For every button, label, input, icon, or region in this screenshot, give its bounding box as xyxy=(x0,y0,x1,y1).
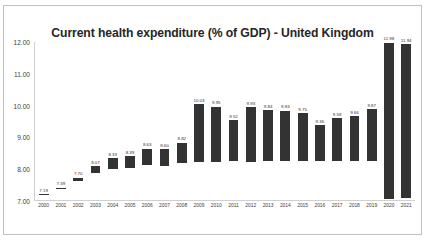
x-axis-tick: 2019 xyxy=(366,204,377,209)
bar-holder: 7.39 xyxy=(52,188,69,200)
bar-group: 9.872019 xyxy=(363,42,380,200)
bar[interactable] xyxy=(56,188,66,189)
bar-holder: 9.58 xyxy=(329,118,346,200)
bar[interactable] xyxy=(142,149,152,166)
bar[interactable] xyxy=(315,125,325,160)
bar-holder: 10.03 xyxy=(190,104,207,200)
bar-group: 9.582017 xyxy=(329,42,346,200)
bar[interactable] xyxy=(350,116,360,161)
plot-area: 12.0011.0010.009.008.007.00 7.1920007.39… xyxy=(34,42,415,201)
bar[interactable] xyxy=(401,44,411,198)
bar-holder: 8.07 xyxy=(87,166,104,200)
x-axis-tick: 2014 xyxy=(280,204,291,209)
bar[interactable] xyxy=(194,104,204,162)
bar[interactable] xyxy=(280,111,290,162)
bar[interactable] xyxy=(263,110,273,161)
x-axis-tick: 2006 xyxy=(142,204,153,209)
bar-value-label: 9.75 xyxy=(298,108,307,112)
bar-group: 10.032009 xyxy=(190,42,207,200)
bar-holder: 8.39 xyxy=(121,156,138,200)
bar-holder: 9.93 xyxy=(242,107,259,200)
bar-holder: 9.66 xyxy=(346,116,363,200)
x-axis-tick: 2000 xyxy=(38,204,49,209)
bar[interactable] xyxy=(160,149,170,165)
x-axis-tick: 2018 xyxy=(349,204,360,209)
bar-value-label: 8.07 xyxy=(91,161,100,165)
bar-group: 9.522011 xyxy=(225,42,242,200)
x-axis-tick: 2010 xyxy=(211,204,222,209)
y-axis-tick: 8.00 xyxy=(17,166,30,173)
bar[interactable] xyxy=(73,178,83,181)
bar[interactable] xyxy=(177,143,187,164)
bar-group: 9.662018 xyxy=(346,42,363,200)
bar-group: 9.832014 xyxy=(277,42,294,200)
bar[interactable] xyxy=(367,109,377,161)
bar-value-label: 9.36 xyxy=(316,120,325,124)
bar-value-label: 9.52 xyxy=(229,115,238,119)
bar-group: 8.602007 xyxy=(156,42,173,200)
bar[interactable] xyxy=(384,43,394,200)
bar[interactable] xyxy=(108,158,118,169)
bar[interactable] xyxy=(332,118,342,160)
x-axis-tick: 2015 xyxy=(297,204,308,209)
bar-holder: 7.19 xyxy=(35,194,52,200)
bar[interactable] xyxy=(246,107,256,161)
bar[interactable] xyxy=(125,156,135,168)
bar-group: 7.392001 xyxy=(52,42,69,200)
bar[interactable] xyxy=(229,120,239,160)
bar-group: 8.332004 xyxy=(104,42,121,200)
bar-value-label: 9.87 xyxy=(367,104,376,108)
bar-group: 11.982020 xyxy=(380,42,397,200)
bar-value-label: 11.98 xyxy=(384,37,395,41)
x-axis-tick: 2003 xyxy=(90,204,101,209)
y-axis-tick: 9.00 xyxy=(17,134,30,141)
bar-value-label: 9.95 xyxy=(212,101,221,105)
bar[interactable] xyxy=(211,107,221,162)
bar-value-label: 7.70 xyxy=(74,172,83,176)
bar-value-label: 9.66 xyxy=(350,111,359,115)
x-axis-tick: 2013 xyxy=(263,204,274,209)
x-axis-tick: 2005 xyxy=(125,204,136,209)
bar-holder: 11.94 xyxy=(398,44,415,200)
bar-value-label: 8.39 xyxy=(126,151,135,155)
bar-holder: 8.63 xyxy=(139,149,156,201)
bar-holder: 8.60 xyxy=(156,149,173,200)
bar-holder: 9.52 xyxy=(225,120,242,200)
bar-value-label: 7.39 xyxy=(57,182,66,186)
bar-group: 9.362016 xyxy=(311,42,328,200)
bar-holder: 9.83 xyxy=(277,111,294,200)
y-axis-tick: 11.00 xyxy=(14,70,30,77)
bar-value-label: 8.60 xyxy=(160,144,169,148)
bar-group: 9.952010 xyxy=(208,42,225,200)
bar-value-label: 9.83 xyxy=(281,105,290,109)
y-axis-tick: 10.00 xyxy=(13,102,30,109)
bar-group: 9.842013 xyxy=(259,42,276,200)
bar-holder: 11.98 xyxy=(380,43,397,200)
bar-group: 8.632006 xyxy=(139,42,156,200)
bar-group: 9.752015 xyxy=(294,42,311,200)
x-axis-line xyxy=(34,200,415,201)
bar-holder: 9.75 xyxy=(294,113,311,200)
x-axis-tick: 2011 xyxy=(228,204,239,209)
bar-holder: 9.95 xyxy=(208,107,225,200)
y-axis-tick: 7.00 xyxy=(17,198,30,205)
bar[interactable] xyxy=(91,166,101,173)
bar-value-label: 10.03 xyxy=(194,99,205,103)
x-axis-tick: 2016 xyxy=(314,204,325,209)
bar-holder: 9.84 xyxy=(259,110,276,200)
bar-value-label: 9.93 xyxy=(247,102,256,106)
bar[interactable] xyxy=(298,113,308,161)
chart-container: Current health expenditure (% of GDP) - … xyxy=(3,5,422,235)
bar-holder: 8.82 xyxy=(173,143,190,201)
y-axis-tick: 12.00 xyxy=(13,39,30,46)
bar-value-label: 8.63 xyxy=(143,143,152,147)
bar-group: 8.072003 xyxy=(87,42,104,200)
bar-holder: 7.70 xyxy=(70,178,87,200)
x-axis-tick: 2017 xyxy=(332,204,343,209)
x-axis-tick: 2012 xyxy=(245,204,256,209)
x-axis-tick: 2020 xyxy=(383,204,394,209)
bar-holder: 8.33 xyxy=(104,158,121,200)
bar-value-label: 9.58 xyxy=(333,113,342,117)
bar-group: 8.392005 xyxy=(121,42,138,200)
bar-group: 8.822008 xyxy=(173,42,190,200)
